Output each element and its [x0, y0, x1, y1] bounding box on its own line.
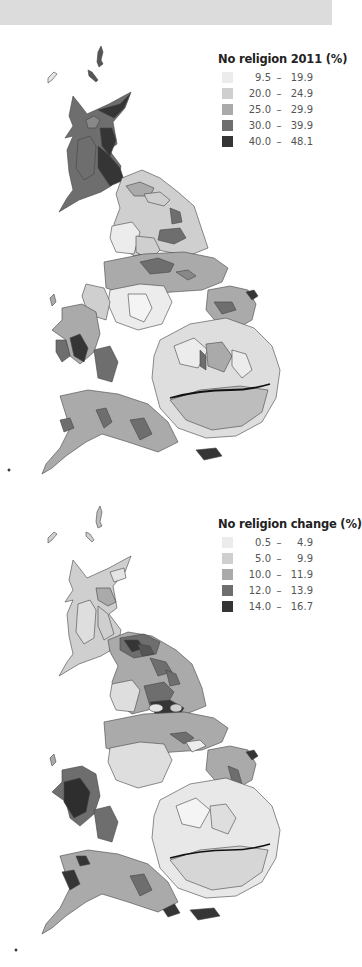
legend-swatch [222, 569, 233, 580]
legend-item: 30.0–39.9 [218, 117, 347, 133]
range-high: 11.9 [287, 569, 313, 580]
map-panel-no-religion-change: No religion change (%) 0.5–4.9 5.0–9.9 1… [0, 480, 356, 967]
range-high: 48.1 [287, 136, 313, 147]
legend-item: 20.0–24.9 [218, 85, 347, 101]
range-low: 0.5 [239, 537, 271, 548]
range-low: 20.0 [239, 88, 271, 99]
legend-title: No religion 2011 (%) [218, 52, 347, 66]
legend-swatch [222, 585, 233, 596]
legend-swatch [222, 72, 233, 83]
range-low: 40.0 [239, 136, 271, 147]
range-low: 5.0 [239, 553, 271, 564]
legend-swatch [222, 537, 233, 548]
range-high: 9.9 [287, 553, 313, 564]
map-panel-no-religion-2011: No religion 2011 (%) 9.5–19.9 20.0–24.9 … [0, 0, 356, 480]
range-low: 12.0 [239, 585, 271, 596]
range-low: 14.0 [239, 601, 271, 612]
legend-swatch [222, 120, 233, 131]
range-high: 4.9 [287, 537, 313, 548]
legend-swatch [222, 136, 233, 147]
range-high: 39.9 [287, 120, 313, 131]
range-high: 16.7 [287, 601, 313, 612]
legend-item: 5.0–9.9 [218, 550, 362, 566]
legend-item: 0.5–4.9 [218, 534, 362, 550]
legend-swatch [222, 601, 233, 612]
island-shape [97, 46, 103, 67]
legend-swatch [222, 88, 233, 99]
legend: No religion change (%) 0.5–4.9 5.0–9.9 1… [218, 517, 362, 614]
range-low: 10.0 [239, 569, 271, 580]
legend-item: 12.0–13.9 [218, 582, 362, 598]
range-low: 9.5 [239, 72, 271, 83]
legend: No religion 2011 (%) 9.5–19.9 20.0–24.9 … [218, 52, 347, 149]
range-high: 19.9 [287, 72, 313, 83]
range-low: 30.0 [239, 120, 271, 131]
range-high: 29.9 [287, 104, 313, 115]
range-high: 24.9 [287, 88, 313, 99]
range-high: 13.9 [287, 585, 313, 596]
legend-swatch [222, 104, 233, 115]
legend-title: No religion change (%) [218, 517, 362, 531]
legend-item: 10.0–11.9 [218, 566, 362, 582]
legend-item: 25.0–29.9 [218, 101, 347, 117]
legend-swatch [222, 553, 233, 564]
legend-item: 14.0–16.7 [218, 598, 362, 614]
legend-item: 40.0–48.1 [218, 133, 347, 149]
range-low: 25.0 [239, 104, 271, 115]
legend-item: 9.5–19.9 [218, 69, 347, 85]
